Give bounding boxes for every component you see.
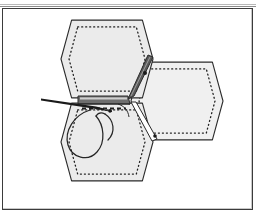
stitch-knot-top <box>143 71 147 75</box>
figure-canvas: Hexagon patchwork whipstitch diagram Eng… <box>0 0 256 213</box>
seam-fold-highlight <box>80 97 127 99</box>
hexagon-patchwork-illustration <box>0 0 256 213</box>
stitch-knot-center <box>108 109 111 112</box>
seam-fold-flap <box>78 96 130 104</box>
stitch-knot-right <box>153 134 157 138</box>
